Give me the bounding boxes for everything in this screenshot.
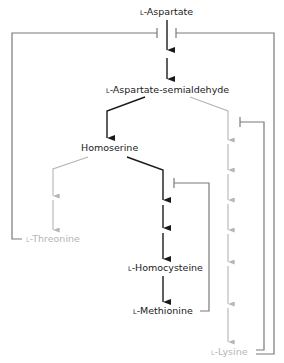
node-methionine: L-Methionine xyxy=(133,305,193,318)
node-homoserine: Homoserine xyxy=(81,142,138,154)
inhibition-methionine xyxy=(174,178,209,311)
edge-homoserine-threonine xyxy=(53,157,88,230)
node-homocysteine: L-Homocysteine xyxy=(128,262,203,275)
node-aspartate: L-Aspartate xyxy=(140,6,193,19)
inhibition-threonine xyxy=(12,28,157,239)
edge-homoserine-homocysteine xyxy=(127,157,163,259)
node-aspartate-semialdehyde: L-Aspartate-semialdehyde xyxy=(106,84,229,97)
node-threonine: L-Threonine xyxy=(26,233,80,246)
edge-semialdehyde-homoserine xyxy=(107,97,145,138)
inhibition-lysine-inner xyxy=(240,117,264,350)
node-lysine: L-Lysine xyxy=(211,346,248,359)
